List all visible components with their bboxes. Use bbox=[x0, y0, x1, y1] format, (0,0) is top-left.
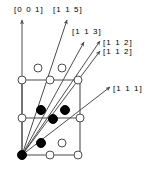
label-dir-111: [1 1 1] bbox=[113, 84, 143, 93]
filled-atom-filled-upper-l bbox=[37, 106, 46, 115]
open-atom-open-row3-r bbox=[74, 151, 82, 159]
direction-vectors bbox=[22, 20, 110, 155]
filled-atom-filled-mid bbox=[49, 115, 58, 124]
label-dir-001: [0 0 1] bbox=[14, 5, 44, 14]
open-atom-open-row1-l bbox=[18, 76, 26, 84]
figure-canvas: [0 0 1][1 1 5][1 1 3][1 1 2][1 1 2][1 1 … bbox=[0, 0, 165, 174]
filled-atom-filled-lower bbox=[37, 139, 46, 148]
filled-lattice-points bbox=[18, 106, 70, 160]
vector-v-112-a bbox=[22, 41, 100, 155]
open-atom-open-low-m bbox=[58, 139, 66, 147]
vector-v-113 bbox=[22, 42, 84, 155]
open-atom-open-row3-m bbox=[46, 151, 54, 159]
filled-atom-filled-upper-r bbox=[61, 106, 70, 115]
open-atom-open-row1-m bbox=[46, 76, 54, 84]
open-atom-open-row2-r bbox=[76, 114, 84, 122]
label-dir-112-a: [1 1 2] bbox=[103, 38, 133, 47]
label-dir-115: [1 1 5] bbox=[53, 5, 83, 14]
label-dir-113: [1 1 3] bbox=[72, 27, 102, 36]
label-dir-112-b: [1 1 2] bbox=[103, 47, 133, 56]
open-atom-open-top-a bbox=[34, 64, 42, 72]
filled-atom-filled-origin bbox=[18, 151, 27, 160]
vector-v-115 bbox=[22, 20, 67, 155]
open-atom-open-top-b bbox=[58, 64, 66, 72]
open-atom-open-row1-r bbox=[74, 76, 82, 84]
open-atom-open-row2-l bbox=[18, 114, 26, 122]
